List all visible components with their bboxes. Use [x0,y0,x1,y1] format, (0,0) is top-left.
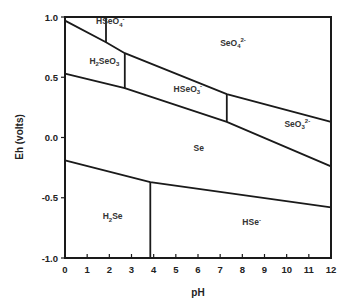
x-tick-label: 8 [240,264,245,275]
x-tick-label: 2 [107,264,112,275]
y-tick-label: -0.5 [42,192,59,203]
region-label-h2se: H2Se [103,211,123,223]
boundary-line [65,21,331,122]
region-label-seo4: SeO42- [220,37,246,49]
x-tick-label: 0 [62,264,67,275]
y-tick-label: 1.0 [45,12,58,23]
x-axis-title: pH [191,287,204,298]
boundary-lines [65,17,331,258]
x-tick-label: 3 [129,264,134,275]
y-tick-label: 0.0 [45,132,58,143]
y-tick-label: -1.0 [42,253,58,264]
x-tick-label: 10 [281,264,292,275]
x-tick-label: 7 [218,264,223,275]
y-tick-label: 0.5 [45,72,59,83]
region-label-h2seo3: H2SeO3 [89,56,120,67]
boundary-line [65,160,331,207]
x-tick-label: 6 [195,264,200,275]
y-axis: 1.00.50.0-0.5-1.0 [42,12,65,264]
region-label-se: Se [194,143,205,153]
x-tick-label: 11 [304,264,315,275]
pourbaix-diagram: 0123456789101112 1.00.50.0-0.5-1.0 HSeO4… [0,0,352,308]
region-labels: HSeO4-SeO42-H2SeO3HSeO3-SeO32-SeH2SeHSe- [89,16,310,228]
x-tick-label: 5 [173,264,179,275]
region-label-hse: HSe- [242,217,261,228]
x-tick-label: 9 [262,264,267,275]
x-tick-label: 4 [151,264,157,275]
region-label-seo3: SeO32- [284,118,310,130]
x-tick-label: 1 [85,264,91,275]
plot-frame [65,17,331,258]
x-tick-label: 12 [326,264,337,275]
region-label-hseo3: HSeO3- [174,83,203,95]
y-axis-title: Eh (volts) [14,114,25,160]
